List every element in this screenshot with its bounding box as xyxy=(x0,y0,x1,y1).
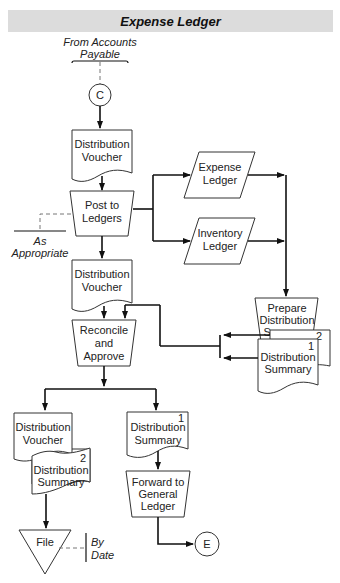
svg-text:Approve: Approve xyxy=(84,350,125,362)
svg-text:Prepare: Prepare xyxy=(267,302,306,314)
svg-text:Distribution: Distribution xyxy=(130,421,185,433)
svg-text:Inventory: Inventory xyxy=(197,227,243,239)
as-appropriate-annotation: As Appropriate xyxy=(11,214,71,259)
svg-text:2: 2 xyxy=(80,452,86,464)
svg-text:Voucher: Voucher xyxy=(82,151,123,163)
off-page-connector-c: C xyxy=(89,84,111,106)
distribution-summary-1-document: 1 Distribution Summary xyxy=(127,412,188,457)
svg-text:Ledgers: Ledgers xyxy=(82,212,122,224)
svg-text:Distribution: Distribution xyxy=(74,268,129,280)
expense-ledger-io: Expense Ledger xyxy=(184,152,255,198)
svg-text:C: C xyxy=(96,89,104,101)
svg-text:Expense: Expense xyxy=(199,161,242,173)
svg-text:Reconcile: Reconcile xyxy=(80,324,128,336)
distribution-voucher-document-1: Distribution Voucher xyxy=(72,130,132,181)
svg-text:Appropriate: Appropriate xyxy=(11,247,69,259)
distribution-summary-multi-document: 2 1 Distribution Summary xyxy=(258,330,330,393)
svg-text:General: General xyxy=(138,488,177,500)
svg-text:and: and xyxy=(95,337,113,349)
svg-text:Voucher: Voucher xyxy=(82,281,123,293)
svg-text:As: As xyxy=(33,235,47,247)
svg-text:Payable: Payable xyxy=(80,48,120,60)
svg-text:Ledger: Ledger xyxy=(203,240,238,252)
svg-text:Date: Date xyxy=(91,549,114,561)
distribution-summary-2-document: 2 Distribution Summary xyxy=(32,448,90,494)
svg-text:Ledger: Ledger xyxy=(203,174,238,186)
svg-text:E: E xyxy=(203,538,210,550)
forward-to-general-ledger-operation: Forward to General Ledger xyxy=(126,471,190,517)
svg-text:Ledger: Ledger xyxy=(141,500,176,512)
off-page-connector-e: E xyxy=(195,532,219,556)
svg-text:Distribution: Distribution xyxy=(15,421,70,433)
flowchart: From Accounts Payable C Distribution Vou… xyxy=(0,0,340,583)
inventory-ledger-io: Inventory Ledger xyxy=(184,218,255,264)
svg-text:Forward to: Forward to xyxy=(132,476,185,488)
post-to-ledgers-operation: Post to Ledgers xyxy=(70,191,134,236)
svg-text:Distribution: Distribution xyxy=(74,138,129,150)
svg-text:Distribution: Distribution xyxy=(33,464,88,476)
svg-text:Distribution: Distribution xyxy=(259,314,314,326)
reconcile-and-approve-operation: Reconcile and Approve xyxy=(72,320,136,366)
svg-text:Summary: Summary xyxy=(134,434,182,446)
svg-text:Distribution: Distribution xyxy=(260,351,315,363)
svg-text:File: File xyxy=(36,536,54,548)
svg-text:Summary: Summary xyxy=(264,363,312,375)
svg-text:Post to: Post to xyxy=(85,199,119,211)
svg-text:By: By xyxy=(91,536,105,548)
from-accounts-payable-annotation: From Accounts Payable xyxy=(63,36,137,86)
svg-text:Summary: Summary xyxy=(37,476,85,488)
by-date-annotation: By Date xyxy=(91,536,114,561)
svg-text:From Accounts: From Accounts xyxy=(63,36,137,48)
svg-text:Voucher: Voucher xyxy=(23,434,64,446)
file-offline-storage: File xyxy=(19,530,71,574)
distribution-voucher-document-2: Distribution Voucher xyxy=(72,260,132,311)
